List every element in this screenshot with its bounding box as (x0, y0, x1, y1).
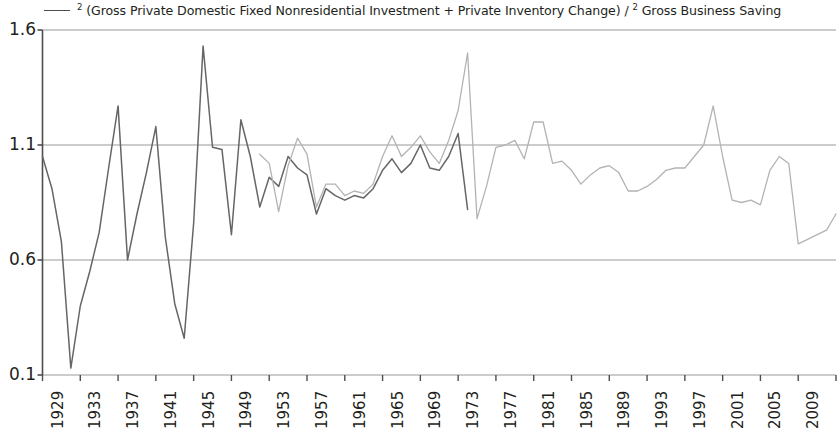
x-axis-label-1985: 1985 (578, 391, 596, 429)
x-axis-label-2001: 2001 (729, 391, 747, 429)
x-axis-label-1929: 1929 (49, 391, 67, 429)
x-axis-label-1941: 1941 (162, 391, 180, 429)
x-axis-label-1945: 1945 (200, 391, 218, 429)
data-series-light (260, 53, 836, 244)
x-axis-label-1957: 1957 (313, 391, 331, 429)
x-axis-label-2009: 2009 (804, 391, 822, 429)
data-series-dark (43, 46, 468, 368)
x-axis-label-1981: 1981 (540, 391, 558, 429)
x-axis-label-1989: 1989 (615, 391, 633, 429)
y-axis-label-1.1: 1.1 (0, 134, 36, 154)
chart-plot-area (0, 0, 840, 432)
x-axis-label-1993: 1993 (653, 391, 671, 429)
x-axis-label-1949: 1949 (237, 391, 255, 429)
x-axis-label-2005: 2005 (766, 391, 784, 429)
y-axis-label-0.1: 0.1 (0, 364, 36, 384)
x-axis-label-1933: 1933 (86, 391, 104, 429)
x-axis-label-1965: 1965 (389, 391, 407, 429)
chart-container: 2 (Gross Private Domestic Fixed Nonresid… (0, 0, 840, 432)
x-axis-label-1953: 1953 (275, 391, 293, 429)
x-axis-label-1969: 1969 (426, 391, 444, 429)
y-axis-label-0.6: 0.6 (0, 249, 36, 269)
x-axis-label-1977: 1977 (502, 391, 520, 429)
x-axis-label-1937: 1937 (124, 391, 142, 429)
x-axis-label-1973: 1973 (464, 391, 482, 429)
x-axis-label-1997: 1997 (691, 391, 709, 429)
y-axis-label-1.6: 1.6 (0, 19, 36, 39)
x-axis-label-1961: 1961 (351, 391, 369, 429)
